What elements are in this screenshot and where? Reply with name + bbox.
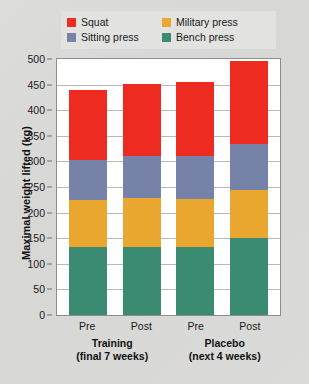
x-axis-tick-label: Post (122, 320, 160, 332)
y-axis-tick-label: 500 (27, 53, 45, 65)
legend-label-sitting-press: Sitting press (81, 32, 139, 43)
y-axis-tick-mark (47, 84, 52, 85)
x-axis-tick-label: Pre (177, 320, 215, 332)
legend-item-bench-press: Bench press (162, 32, 282, 43)
legend-label-squat: Squat (81, 17, 108, 28)
y-axis-tick-label: 0 (39, 309, 45, 321)
bar-segment-squat[interactable] (230, 61, 268, 144)
x-axis-group-placebo: Placebo(next 4 weeks) (169, 337, 282, 363)
x-axis-group-subtitle: (next 4 weeks) (169, 350, 282, 363)
x-axis-tick-label: Post (231, 320, 269, 332)
legend-swatch-bench-press (162, 33, 171, 42)
x-axis-group-training: Training(final 7 weeks) (56, 337, 169, 363)
bar-segment-squat[interactable] (123, 84, 161, 157)
y-axis-tick-mark (47, 289, 52, 290)
y-axis-tick-label: 50 (33, 283, 45, 295)
bar-segment-military-press[interactable] (176, 199, 214, 247)
x-axis-group-title: Training (56, 337, 169, 350)
bar-segment-bench-press[interactable] (123, 247, 161, 315)
bar-segment-military-press[interactable] (230, 190, 268, 238)
legend-item-squat: Squat (67, 17, 162, 28)
x-axis-group-subtitle: (final 7 weeks) (56, 350, 169, 363)
bar-stack[interactable] (230, 61, 268, 315)
bar-segment-squat[interactable] (176, 82, 214, 156)
y-axis-tick-mark (47, 135, 52, 136)
legend-label-bench-press: Bench press (176, 32, 234, 43)
y-axis-tick-mark (47, 263, 52, 264)
bar-segment-sitting-press[interactable] (69, 160, 107, 200)
y-axis-title: Maximal weight lifted (kg) (20, 83, 32, 303)
legend-item-military-press: Military press (162, 17, 282, 28)
x-axis-tick-labels: PrePostPrePost (56, 320, 281, 332)
y-axis-tick-mark (47, 315, 52, 316)
legend-swatch-squat (67, 18, 76, 27)
bar-stack[interactable] (176, 82, 214, 315)
legend-swatch-military-press (162, 18, 171, 27)
x-axis-group-title: Placebo (169, 337, 282, 350)
bar-segment-military-press[interactable] (69, 200, 107, 247)
y-axis-tick-mark (47, 59, 52, 60)
bar-stack[interactable] (69, 90, 107, 315)
chart-legend: Squat Military press Sitting press Bench… (61, 11, 276, 49)
bar-segment-squat[interactable] (69, 90, 107, 160)
bar-segment-bench-press[interactable] (69, 247, 107, 315)
y-axis-tick-mark (47, 161, 52, 162)
bar-segment-military-press[interactable] (123, 198, 161, 247)
legend-label-military-press: Military press (176, 17, 238, 28)
bar-segment-sitting-press[interactable] (230, 144, 268, 191)
legend-item-sitting-press: Sitting press (67, 32, 162, 43)
chart-figure: Squat Military press Sitting press Bench… (0, 0, 309, 384)
y-axis-tick-mark (47, 212, 52, 213)
x-axis-group-labels: Training(final 7 weeks)Placebo(next 4 we… (56, 337, 281, 363)
bar-segment-sitting-press[interactable] (176, 156, 214, 198)
x-axis-tick-label: Pre (68, 320, 106, 332)
bar-segment-bench-press[interactable] (230, 238, 268, 315)
bar-segment-sitting-press[interactable] (123, 156, 161, 198)
y-axis-tick-mark (47, 187, 52, 188)
bar-segment-bench-press[interactable] (176, 247, 214, 315)
y-axis-tick-mark (47, 238, 52, 239)
y-axis-tick-mark (47, 110, 52, 111)
plot-area (56, 58, 281, 316)
bar-series-container (57, 59, 280, 315)
legend-swatch-sitting-press (67, 33, 76, 42)
bar-stack[interactable] (123, 84, 161, 315)
